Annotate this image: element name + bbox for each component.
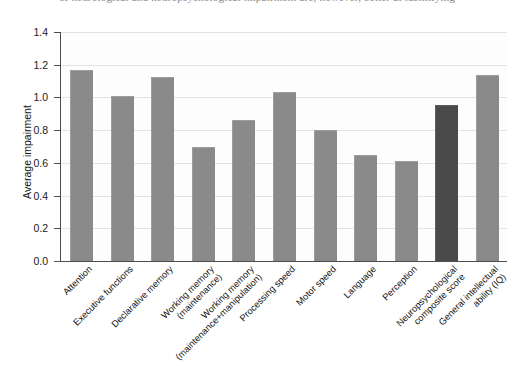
y-axis-tick [54,65,61,66]
bar [435,105,458,261]
y-axis-tick-label: 1.2 [2,60,48,70]
x-axis-label: Language [342,264,379,301]
gridline [61,32,507,33]
x-axis-label-line: Motor speed [294,264,338,308]
bar [70,70,93,261]
bar [273,92,296,261]
bar [111,96,134,261]
y-axis-tick [54,196,61,197]
bar [354,155,377,261]
y-axis-title: Average impairment [21,62,33,242]
y-axis-tick-label: 0.4 [2,191,48,201]
bar [395,161,418,261]
gridline [61,65,507,66]
x-axis-label-line: Perception [380,264,419,303]
bar [314,130,337,261]
x-axis-label: Attention [61,264,94,297]
plot-area [61,32,507,261]
y-axis-tick-label: 0.0 [2,256,48,266]
x-axis-line [60,261,507,262]
x-axis-label: Motor speed [294,264,338,308]
y-axis-tick [54,97,61,98]
y-axis-tick-label: 0.2 [2,223,48,233]
y-axis-tick [54,261,61,262]
bar-chart-figure: Average impairment 0.00.20.40.60.81.01.2… [0,0,514,388]
bar [192,147,215,261]
x-axis-label-line: Attention [61,264,94,297]
y-axis-tick [54,130,61,131]
bar [476,75,499,261]
y-axis-tick-label: 0.6 [2,158,48,168]
bar [232,120,255,261]
y-axis-tick-label: 1.4 [2,27,48,37]
bar [151,77,174,261]
y-axis-tick [54,32,61,33]
x-axis-label-line: Language [342,264,378,300]
y-axis-tick-label: 1.0 [2,92,48,102]
y-axis-tick-label: 0.8 [2,125,48,135]
y-axis-tick [54,228,61,229]
x-axis-label: Perception [380,264,419,303]
y-axis-tick [54,163,61,164]
